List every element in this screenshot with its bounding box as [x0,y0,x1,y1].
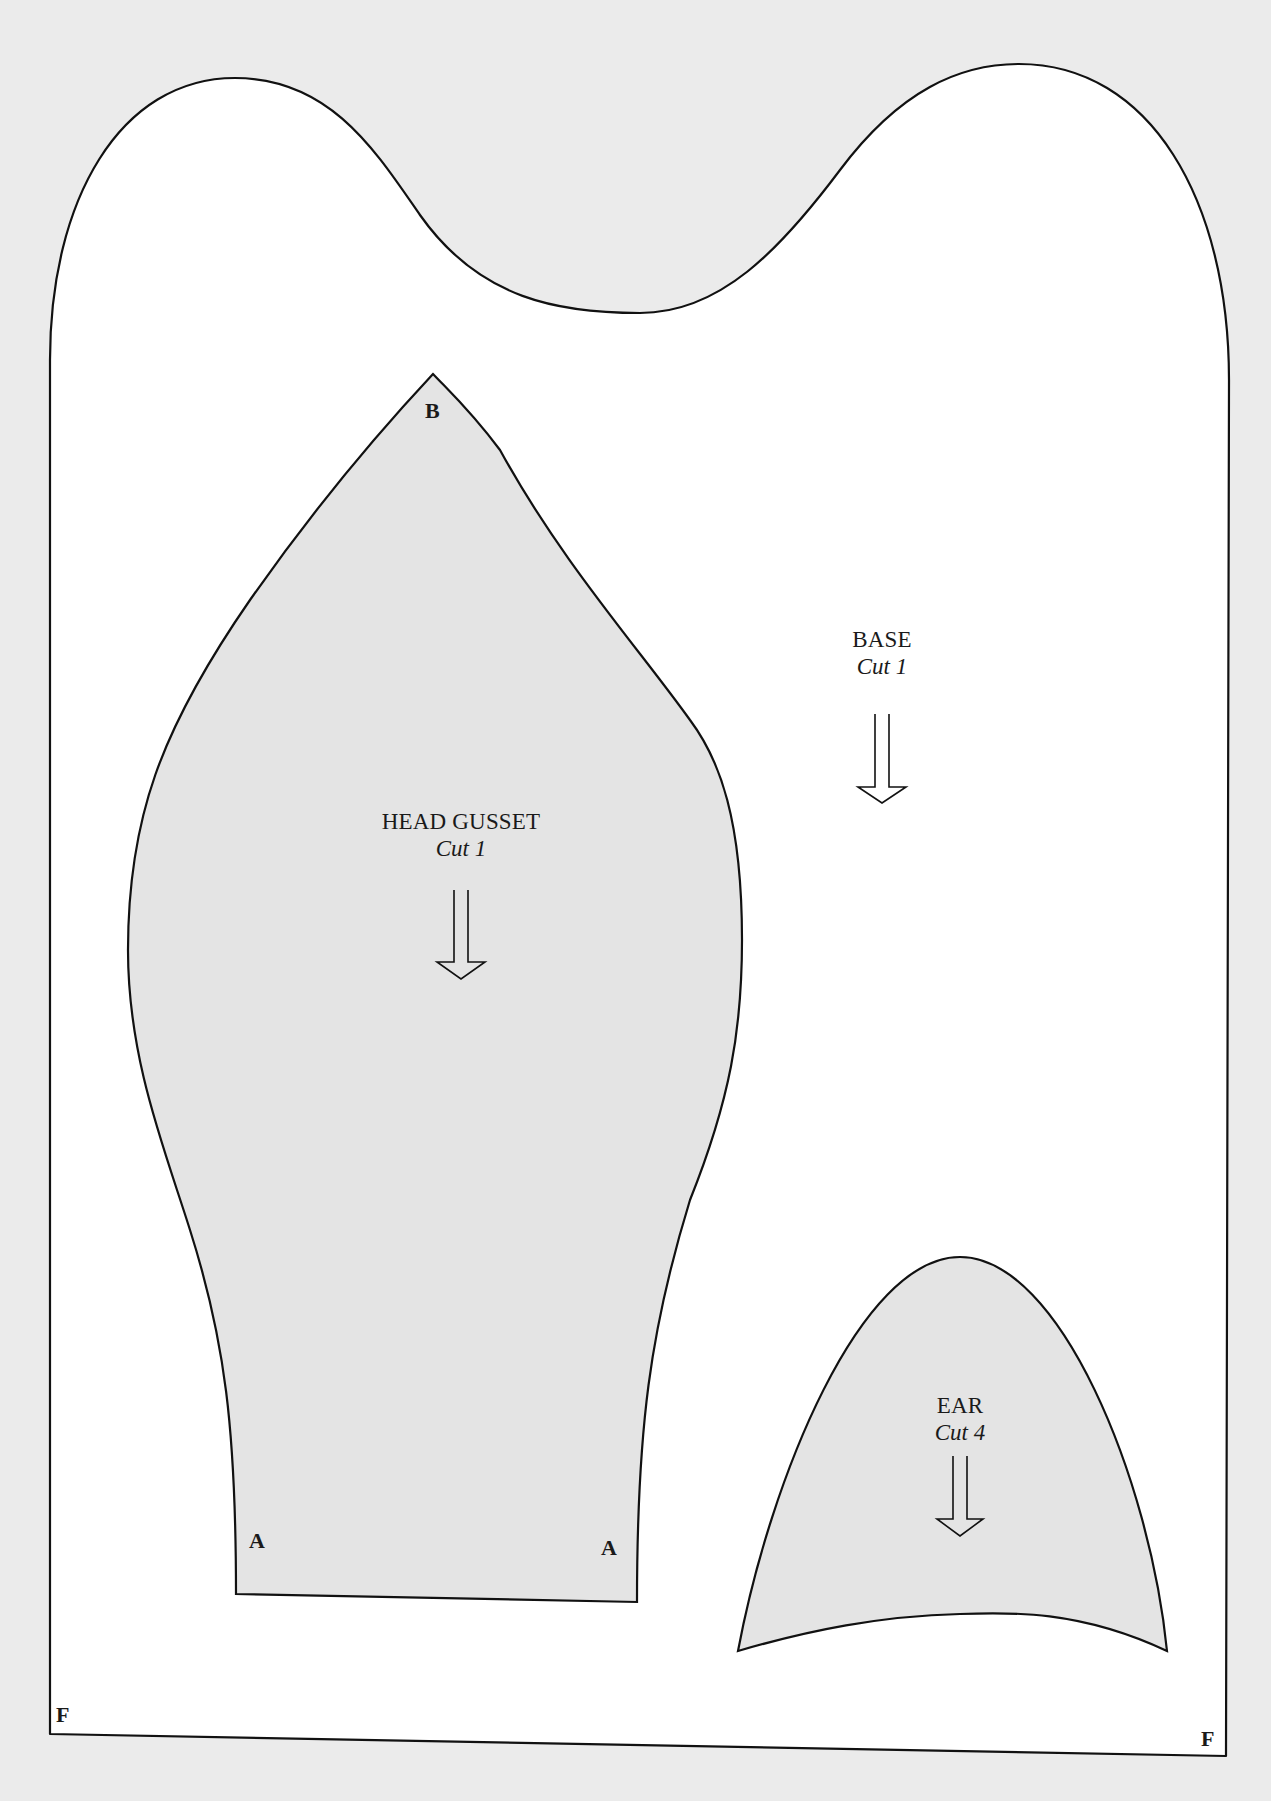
head-gusset-label: HEAD GUSSET Cut 1 [382,810,541,860]
marker-b: B [425,400,440,422]
pattern-drawing [0,0,1271,1801]
head-gusset-cut-count: Cut 1 [382,837,541,860]
pattern-sheet: BASE Cut 1 HEAD GUSSET Cut 1 EAR Cut 4 B… [0,0,1271,1801]
ear-label: EAR Cut 4 [935,1394,985,1444]
base-label: BASE Cut 1 [852,628,912,678]
marker-a-right: A [601,1537,617,1559]
ear-cut-count: Cut 4 [935,1421,985,1444]
head-gusset-title: HEAD GUSSET [382,810,541,833]
marker-f-right: F [1201,1728,1214,1750]
base-cut-count: Cut 1 [852,655,912,678]
marker-a-left: A [249,1530,265,1552]
ear-title: EAR [935,1394,985,1417]
marker-f-left: F [56,1704,69,1726]
base-title: BASE [852,628,912,651]
